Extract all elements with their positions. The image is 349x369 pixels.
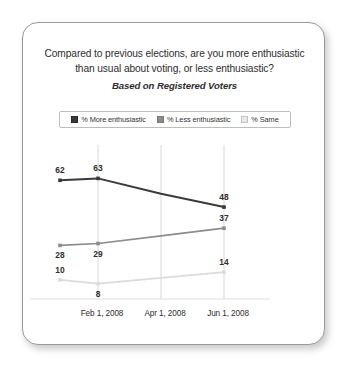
chart-subtitle: Based on Registered Voters: [33, 78, 316, 93]
series-line: [60, 272, 224, 284]
legend-swatch-same: [241, 116, 248, 123]
x-axis-tick-label-1: Apr 1, 2008: [144, 309, 185, 318]
data-point-marker: [58, 179, 62, 183]
data-point-marker: [58, 244, 62, 248]
series-line: [60, 178, 224, 207]
legend-swatch-less-enthusiastic: [157, 116, 164, 123]
legend-item-more-enthusiastic[interactable]: % More enthusiastic: [71, 115, 146, 124]
data-label: 29: [93, 249, 103, 259]
legend-item-same[interactable]: % Same: [241, 115, 278, 124]
data-point-marker: [96, 177, 100, 181]
data-label: 37: [219, 213, 229, 223]
data-point-marker: [222, 226, 226, 230]
chart-title-block: Compared to previous elections, are you …: [33, 47, 316, 93]
data-label: 48: [219, 192, 229, 202]
data-point-marker: [58, 278, 62, 282]
screenshot-root: Compared to previous elections, are you …: [0, 0, 349, 369]
chart-x-axis: Feb 1, 2008Apr 1, 2008Jun 1, 2008: [26, 309, 323, 325]
chart-svg: 62634828293710814: [26, 141, 323, 305]
series-1: 282937: [55, 213, 229, 260]
legend-label-more-enthusiastic: % More enthusiastic: [81, 115, 146, 124]
data-label: 14: [219, 257, 229, 267]
series-line: [60, 228, 224, 245]
x-axis-tick-label-0: Feb 1, 2008: [81, 309, 124, 318]
data-label: 63: [93, 163, 103, 173]
legend-label-less-enthusiastic: % Less enthusiastic: [167, 115, 230, 124]
chart-plot-area: 62634828293710814: [26, 141, 323, 305]
data-point-marker: [222, 270, 226, 274]
chart-title-line-2: than usual about voting, or less enthusi…: [33, 62, 316, 77]
legend-item-less-enthusiastic[interactable]: % Less enthusiastic: [157, 115, 230, 124]
chart-legend: % More enthusiastic % Less enthusiastic …: [59, 111, 291, 128]
data-label: 8: [96, 289, 101, 299]
data-label: 28: [55, 250, 65, 260]
data-label: 62: [55, 165, 65, 175]
series-0: 626348: [55, 163, 229, 209]
legend-label-same: % Same: [251, 115, 278, 124]
data-point-marker: [96, 282, 100, 286]
chart-card: Compared to previous elections, are you …: [22, 22, 325, 345]
data-point-marker: [222, 205, 226, 209]
data-point-marker: [96, 242, 100, 246]
data-label: 10: [55, 265, 65, 275]
x-axis-tick-label-2: Jun 1, 2008: [207, 309, 249, 318]
legend-swatch-more-enthusiastic: [71, 116, 78, 123]
chart-title-line-1: Compared to previous elections, are you …: [33, 47, 316, 62]
series-2: 10814: [55, 257, 229, 299]
